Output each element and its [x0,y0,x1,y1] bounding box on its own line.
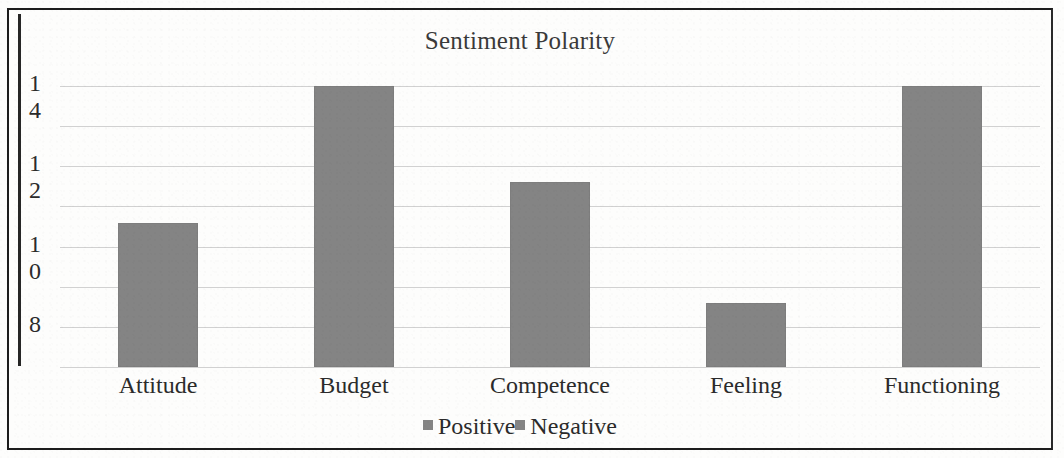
bar [118,223,198,368]
y-tick-digit: 0 [18,258,52,285]
y-tick-digit: 2 [18,177,52,204]
bar-series-positive [60,86,1040,367]
y-axis-tick-labels: 1412108 [18,70,60,370]
chart-figure: Sentiment Polarity 1412108 AttitudeBudge… [0,0,1064,458]
gridline [60,367,1040,368]
x-axis-category-label: Budget [256,372,452,399]
bar [902,86,982,367]
y-tick-digit: 4 [18,97,52,124]
legend-swatch-icon [515,420,525,430]
y-tick-digit: 1 [18,150,52,177]
y-tick-digit: 1 [18,70,52,97]
legend-item[interactable]: Positive [423,414,515,438]
legend-swatch-icon [423,420,433,430]
y-axis-tick-label: 8 [8,311,52,338]
legend-item[interactable]: Negative [515,414,617,438]
bar [314,86,394,367]
bar [510,182,590,367]
y-tick-digit: 1 [18,231,52,258]
x-axis-category-labels: AttitudeBudgetCompetenceFeelingFunctioni… [60,372,1050,408]
plot-area [60,86,1040,367]
legend-label: Positive [438,414,515,438]
bar [706,303,786,367]
x-axis-category-label: Feeling [648,372,844,399]
x-axis-category-label: Functioning [844,372,1040,399]
y-tick-digit: 8 [18,311,52,338]
x-axis-category-label: Attitude [60,372,256,399]
y-axis-tick-label: 10 [18,231,52,285]
chart-title: Sentiment Polarity [0,27,1040,55]
x-axis-category-label: Competence [452,372,648,399]
legend-label: Negative [530,414,617,438]
y-axis-tick-label: 12 [18,150,52,204]
chart-legend: PositiveNegative [0,414,1040,438]
y-axis-tick-label: 14 [18,70,52,124]
